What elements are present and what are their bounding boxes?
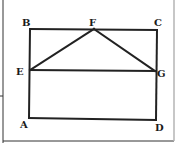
segment-AB: [29, 29, 30, 118]
segment-FG: [94, 29, 155, 71]
segment-EG: [30, 70, 155, 71]
point-label-C: C: [154, 17, 162, 28]
segment-EF: [30, 29, 94, 70]
point-label-D: D: [155, 122, 164, 133]
point-label-G: G: [157, 68, 166, 79]
geometry-diagram: B F C E G A D: [0, 0, 181, 143]
point-label-F: F: [89, 17, 96, 28]
point-label-A: A: [19, 119, 28, 130]
segment-DA: [29, 118, 156, 120]
point-label-B: B: [22, 17, 30, 28]
point-label-E: E: [16, 66, 24, 77]
